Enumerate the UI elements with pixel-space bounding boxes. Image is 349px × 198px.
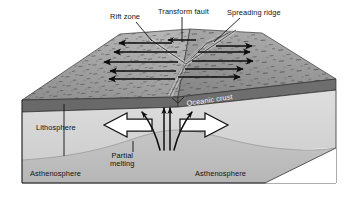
label-asthenosphere-right: Asthenosphere: [195, 170, 246, 178]
mid-ocean-ridge-diagram: Rift zone Transform fault Spreading ridg…: [0, 0, 349, 198]
label-partial-melting: Partial melting: [110, 152, 135, 168]
label-partial-melting-line2: melting: [110, 159, 135, 168]
label-transform-fault: Transform fault: [158, 8, 209, 16]
label-spreading-ridge: Spreading ridge: [227, 9, 281, 17]
seafloor-top-surface-left: [22, 29, 190, 100]
label-asthenosphere-left: Asthenosphere: [30, 170, 81, 178]
label-lithosphere: Lithosphere: [36, 124, 76, 132]
label-rift-zone: Rift zone: [110, 13, 140, 21]
